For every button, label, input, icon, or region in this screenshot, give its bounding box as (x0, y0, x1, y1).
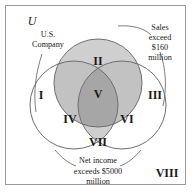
region-label-2: II (93, 54, 103, 68)
region-label-8: VIII (156, 166, 179, 180)
caption-net-income-line-3: million (86, 177, 110, 186)
caption-sales-line-1: Sales (151, 23, 168, 32)
region-label-4: IV (63, 112, 77, 126)
region-label-6: VI (120, 112, 134, 126)
leader-net-income-left (55, 150, 76, 166)
caption-sales-line-4: million (148, 53, 172, 62)
caption-us-company-line-1: U.S. (41, 30, 56, 39)
region-label-1: I (39, 88, 44, 102)
venn-diagram-screenshot: U I II III IV V VI VII VIII U.S. Company… (0, 0, 196, 193)
caption-net-income-line-2: exceeds $5000 (74, 167, 122, 176)
venn-diagram-canvas: U I II III IV V VI VII VIII U.S. Company… (0, 0, 196, 193)
caption-us-company-line-2: Company (32, 40, 65, 49)
leader-us-company (35, 54, 42, 112)
caption-sales-line-3: $160 (152, 43, 168, 52)
region-label-7: VII (89, 135, 107, 149)
caption-sales-line-2: exceed (149, 33, 172, 42)
region-label-3: III (148, 88, 162, 102)
region-label-5: V (94, 87, 103, 101)
leader-sales-left (118, 26, 151, 35)
leader-net-income-right (120, 150, 141, 166)
caption-net-income-line-1: Net income (79, 156, 117, 165)
universe-label: U (28, 14, 38, 28)
